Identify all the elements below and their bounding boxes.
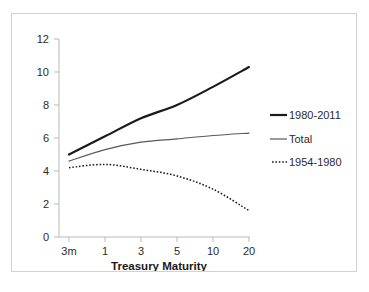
y-tick-label-12: 12	[37, 33, 49, 45]
x-axis-title: Treasury Maturity	[111, 260, 207, 271]
y-tick-label-4: 4	[43, 165, 49, 177]
x-tick-label-20: 20	[243, 245, 255, 257]
legend-label-total: Total	[289, 133, 312, 145]
x-tick-label-5: 5	[174, 245, 180, 257]
legend-label-1954-1980: 1954-1980	[289, 156, 342, 168]
legend-label-1980-2011: 1980-2011	[289, 109, 341, 121]
figure-frame: 12 10 8 6 4 2 0 3m 1 3 5 10 20 Treasury …	[11, 13, 357, 272]
x-tick-label-3: 3	[138, 245, 144, 257]
x-tick-label-1: 1	[102, 245, 108, 257]
y-tick-label-2: 2	[43, 198, 49, 210]
y-tick-label-10: 10	[37, 66, 49, 78]
y-tick-label-0: 0	[43, 231, 49, 243]
y-tick-label-8: 8	[43, 99, 49, 111]
x-tick-label-3m: 3m	[61, 245, 76, 257]
y-tick-label-6: 6	[43, 132, 49, 144]
x-tick-label-10: 10	[207, 245, 219, 257]
line-chart: 12 10 8 6 4 2 0 3m 1 3 5 10 20 Treasury …	[12, 14, 356, 271]
